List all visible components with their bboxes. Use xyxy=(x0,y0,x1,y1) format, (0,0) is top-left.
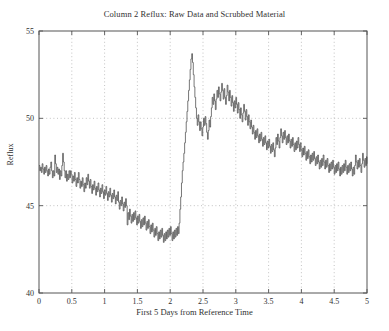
svg-text:2.5: 2.5 xyxy=(198,297,208,306)
svg-text:3.5: 3.5 xyxy=(264,297,274,306)
tick-labels: 00.511.522.533.544.5540455055 xyxy=(26,27,369,306)
svg-text:4.5: 4.5 xyxy=(329,297,339,306)
svg-text:55: 55 xyxy=(26,27,34,36)
svg-text:50: 50 xyxy=(26,114,34,123)
svg-text:5: 5 xyxy=(365,297,369,306)
svg-text:0.5: 0.5 xyxy=(67,297,77,306)
svg-text:2: 2 xyxy=(168,297,172,306)
svg-text:0: 0 xyxy=(37,297,41,306)
chart-figure: Column 2 Reflux: Raw Data and Scrubbed M… xyxy=(0,0,389,331)
svg-text:40: 40 xyxy=(26,289,34,298)
svg-text:4: 4 xyxy=(299,297,303,306)
plot-canvas: 00.511.522.533.544.5540455055 xyxy=(0,0,389,331)
svg-text:1: 1 xyxy=(103,297,107,306)
svg-text:3: 3 xyxy=(234,297,238,306)
svg-text:1.5: 1.5 xyxy=(132,297,142,306)
svg-text:45: 45 xyxy=(26,202,34,211)
